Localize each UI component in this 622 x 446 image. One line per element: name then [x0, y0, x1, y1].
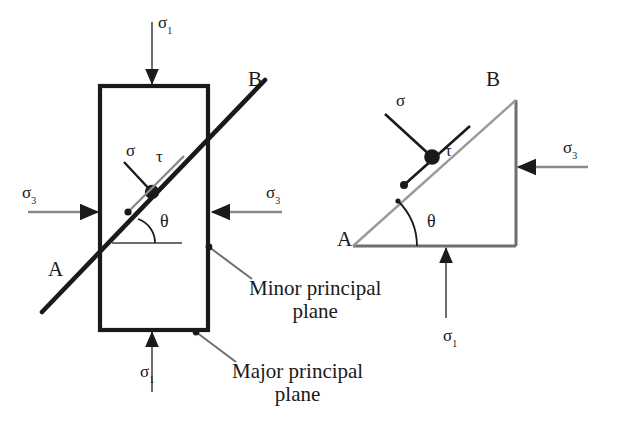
- label-plane-a-left: A: [48, 258, 63, 281]
- caption-major-line2: plane: [232, 383, 363, 406]
- label-shear-stress-left: τ: [156, 148, 163, 166]
- caption-major-line1: Major principal: [232, 360, 363, 383]
- normal-stress-arrow-left: [124, 162, 152, 192]
- label-sigma1-bottom-right: σ1: [443, 327, 457, 348]
- major-plane-leader: [193, 329, 236, 362]
- shear-stress-arrow-left: [124, 156, 184, 216]
- label-sigma1-top: σ1: [158, 14, 172, 35]
- label-sigma3-right-triangle: σ3: [563, 139, 577, 160]
- label-vertex-b-right: B: [486, 68, 500, 91]
- label-vertex-a-right: A: [337, 228, 352, 251]
- shear-stress-arrow-right: [400, 126, 470, 189]
- caption-minor-line2: plane: [249, 300, 381, 323]
- label-theta-left: θ: [160, 212, 169, 231]
- label-normal-stress-right: σ: [396, 92, 405, 110]
- failure-plane-line-ab: [42, 80, 265, 312]
- caption-minor-line1: Minor principal: [249, 277, 381, 300]
- theta-arc-left: [138, 219, 155, 243]
- rectangle-element-body: [100, 86, 208, 330]
- label-theta-right: θ: [427, 212, 436, 231]
- minor-plane-leader: [206, 244, 252, 279]
- label-sigma3-right: σ3: [266, 184, 280, 205]
- label-sigma1-bottom: σ1: [140, 363, 154, 384]
- caption-major-principal-plane: Major principal plane: [232, 360, 363, 405]
- label-normal-stress-left: σ: [126, 142, 135, 160]
- normal-stress-arrow-right: [385, 114, 432, 157]
- label-shear-stress-right: τ: [445, 142, 452, 160]
- figure-canvas: σ1 σ1 σ3 σ3 A B σ τ θ Minor principal pl…: [0, 0, 622, 446]
- caption-minor-principal-plane: Minor principal plane: [249, 277, 381, 322]
- label-sigma3-left: σ3: [22, 184, 36, 205]
- label-plane-b-left: B: [248, 68, 262, 91]
